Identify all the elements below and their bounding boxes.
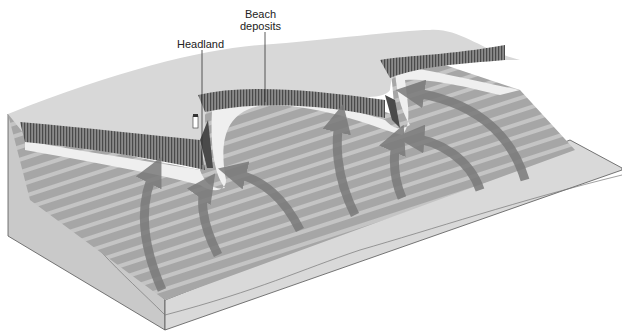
- headland-label: Headland: [177, 38, 224, 50]
- beach-deposits-label-line2: deposits: [240, 20, 281, 32]
- beach-deposits-label: Beach deposits: [240, 8, 281, 32]
- beach-deposits-label-line1: Beach: [240, 8, 281, 20]
- headland-refraction-diagram: [0, 0, 622, 333]
- lighthouse-icon: [193, 114, 198, 128]
